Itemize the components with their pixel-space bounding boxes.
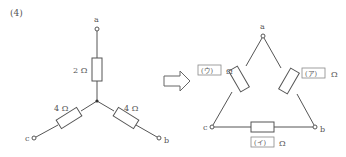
delta-terminal-a [261,34,265,38]
blank-bc-label: (イ) [254,139,267,147]
star-label-c: c [25,134,30,143]
blank-ab: (ア) Ω [302,68,338,79]
blank-ca: (ウ) Ω [198,65,233,76]
resistor-label-2ohm: 2 Ω [73,66,88,75]
delta-label-a: a [260,22,265,31]
blank-ca-label: (ウ) [201,67,214,75]
terminal-b [157,136,161,140]
delta-terminal-b [313,125,317,129]
star-label-a: a [94,15,99,24]
problem-number: (4) [10,8,23,18]
delta-circuit [210,34,317,132]
blank-ab-label: (ア) [305,70,318,78]
terminal-a [95,27,99,31]
resistor-label-4ohm-b: 4 Ω [124,104,139,113]
resistor-2ohm [92,58,102,81]
blank-bc: (イ) Ω [251,137,286,148]
circuit-diagram: (4) a c b 2 Ω 4 Ω 4 Ω [0,0,346,157]
unit-bc: Ω [279,139,286,148]
resistor-bc [251,122,274,132]
star-circuit [32,27,161,140]
delta-label-b: b [320,125,325,134]
delta-terminal-c [210,125,214,129]
resistor-label-4ohm-c: 4 Ω [54,104,69,113]
resistor-ab [279,68,300,94]
star-label-b: b [164,136,169,145]
star-center-node [95,99,98,102]
terminal-c [32,136,36,140]
right-arrow-icon [164,71,190,91]
unit-ab: Ω [331,70,338,79]
delta-label-c: c [203,123,208,132]
unit-ca: Ω [226,67,233,76]
